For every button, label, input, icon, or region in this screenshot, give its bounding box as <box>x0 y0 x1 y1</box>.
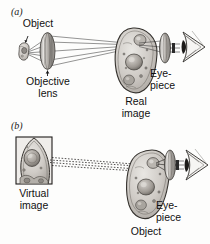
panel-a: (a) <box>0 0 210 120</box>
objective-lens <box>40 33 55 70</box>
objective-label-arrowhead <box>46 71 50 74</box>
panel-b: (b) <box>0 118 210 244</box>
label-object-b: Object <box>116 226 176 238</box>
panel-b-graphics <box>0 118 210 244</box>
microscope-figure: (a) <box>0 0 210 244</box>
object-label-pointer-a <box>26 36 29 43</box>
ray-bundle-eyepiece-to-eye-b <box>175 161 184 169</box>
virtual-image-frame <box>16 137 52 184</box>
eyepiece-lens-a <box>160 33 171 63</box>
label-real-image: Real image <box>108 96 164 119</box>
label-object-a: Object <box>8 18 68 30</box>
virtual-ray-extension <box>150 160 166 170</box>
ray-bundle-object-to-objective <box>25 40 44 62</box>
ray-bundle-object-to-eyepiece-b <box>156 158 168 172</box>
label-virtual-image: Virtual image <box>4 188 64 211</box>
virtual-ray-cone <box>50 158 152 173</box>
eye-icon-b <box>185 149 209 180</box>
ray-bundle-eyepiece-to-eye-a <box>170 44 180 52</box>
label-objective-lens: Objective lens <box>12 76 84 99</box>
label-eyepiece-b: Eye- piece <box>156 200 204 223</box>
beam-stop-a <box>172 43 175 53</box>
ray-bundle-image-to-eyepiece <box>139 41 161 52</box>
beam-stop-b <box>176 160 179 170</box>
eye-icon-a <box>182 31 206 62</box>
object-amoeba-a <box>19 43 29 60</box>
object-label-arrowhead-a <box>24 40 27 42</box>
label-eyepiece-a: Eye- piece <box>150 68 198 91</box>
panel-b-label: (b) <box>11 120 23 131</box>
eyepiece-lens-b <box>165 150 176 180</box>
ray-bundle-objective-to-image <box>25 36 137 66</box>
panel-a-label: (a) <box>11 6 23 17</box>
